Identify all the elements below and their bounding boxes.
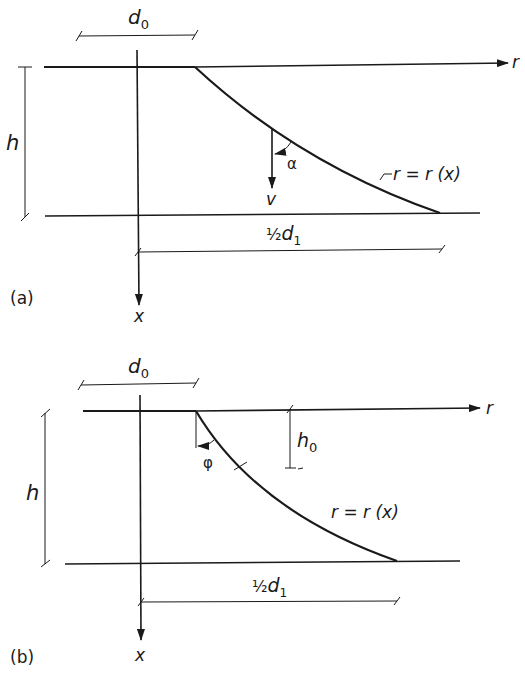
half-d1-dimension-b: ½d1 [138,574,400,606]
panel-label-b: (b) [10,647,34,667]
x-axis-a [137,50,139,305]
curve-label-a: r = r (x) [393,164,461,184]
d0-label-b: d0 [128,354,149,381]
r-axis-b [196,408,480,411]
panel-label-a: (a) [10,288,34,308]
d0-dimension-b: d0 [78,354,199,390]
d0-label-a: d0 [128,5,149,32]
velocity-label-a: v [266,189,277,209]
exit-line-b [65,561,460,564]
h0-dimension-b: h0 [285,405,317,469]
phi-label-b: φ [203,454,213,472]
h-label-b: h [26,481,39,505]
h-label-a: h [6,131,19,155]
curve-label-b: r = r (x) [331,502,399,522]
h0-label-b: h0 [297,429,317,455]
alpha-label-a: α [287,155,297,173]
x-axis-label-b: x [134,645,146,665]
panel-b: d0 r x h r = r (x) φ [10,354,494,667]
x-axis-label-a: x [133,306,145,326]
r-axis-label-a: r [512,52,520,72]
h-dimension-a: h [6,67,32,221]
half-d1-label-b: ½d1 [252,574,287,600]
panel-a: d0 r x h r = r (x) v α [6,5,520,326]
r-axis-label-b: r [486,398,494,418]
h-dimension-b: h [26,409,50,567]
half-d1-dimension-a: ½d1 [135,222,445,256]
die-profile-diagram: d0 r x h r = r (x) v α [0,0,525,679]
phi-arc-b [198,440,214,446]
exit-line-a [45,213,480,216]
curve-leader-a [380,174,392,180]
alpha-arc-a [275,142,291,154]
d0-dimension-a: d0 [76,5,198,41]
r-axis-a [195,63,508,67]
profile-curve-a [195,67,440,213]
half-d1-label-a: ½d1 [266,222,301,248]
